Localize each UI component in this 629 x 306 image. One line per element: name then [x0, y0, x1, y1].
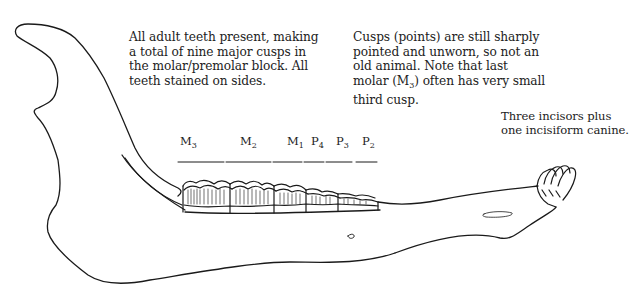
annotation-line: All adult teeth present, making	[129, 30, 318, 45]
annotation-line-molar: molar (M3) often has very small	[353, 74, 545, 94]
annotation-line: a total of nine major cusps in	[129, 45, 318, 60]
tooth-label-p2: P2	[362, 134, 375, 150]
tooth-staining	[188, 189, 366, 204]
annotation-line: third cusp.	[353, 93, 545, 108]
annotation-incisors: Three incisors plus one incisiform canin…	[501, 110, 629, 137]
tooth-label-p4: P4	[311, 134, 324, 150]
tooth-index: 1	[299, 141, 304, 150]
small-foramen	[348, 234, 354, 238]
annotation-line: one incisiform canine.	[501, 124, 629, 138]
annotation-line: pointed and unworn, so not an	[353, 45, 545, 60]
tooth-letter: P	[362, 134, 370, 148]
lower-body-line	[395, 207, 556, 253]
annotation-line: the molar/premolar block. All	[129, 59, 318, 74]
molar-suffix: ) often has very small	[414, 74, 545, 88]
tooth-label-m1: M1	[287, 134, 304, 150]
tooth-label-m3: M3	[180, 134, 197, 150]
tooth-index: 4	[319, 141, 324, 150]
annotation-line: teeth stained on sides.	[129, 74, 318, 89]
tooth-label-m2: M2	[240, 134, 257, 150]
tooth-letter: M	[180, 134, 192, 148]
tooth-letter: P	[311, 134, 319, 148]
tooth-letter: M	[287, 134, 299, 148]
tooth-index: 3	[344, 141, 349, 150]
annotation-teeth-present: All adult teeth present, making a total …	[129, 30, 318, 88]
tooth-index: 3	[192, 141, 197, 150]
tooth-letter: P	[336, 134, 344, 148]
molar-prefix: molar (M	[353, 74, 409, 88]
annotation-line: Three incisors plus	[501, 110, 629, 124]
annotation-cusps: Cusps (points) are still sharply pointed…	[353, 30, 545, 108]
tooth-letter: M	[240, 134, 252, 148]
incisors	[537, 166, 576, 207]
tooth-label-p3: P3	[336, 134, 349, 150]
annotation-line: Cusps (points) are still sharply	[353, 30, 545, 45]
tooth-index: 2	[370, 141, 375, 150]
tooth-index: 2	[252, 141, 257, 150]
alveolar-border	[185, 210, 380, 213]
annotation-line: old animal. Note that last	[353, 59, 545, 74]
mental-foramen	[483, 212, 513, 218]
